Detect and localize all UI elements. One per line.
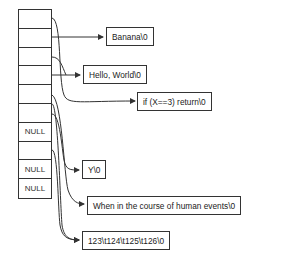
string-box-hello: Hello, World\0 [83,65,147,84]
array-cell [19,142,51,161]
array-cell [19,66,51,85]
arrow-to-num-b [52,150,79,240]
arrow-cell3-to-hello [52,57,66,75]
pointer-array: NULL NULL NULL [18,9,52,199]
array-cell-null: NULL [19,160,51,179]
array-cell [19,48,51,67]
string-box-y: Y\0 [82,160,106,179]
string-box-numbers: 123\t124\t125\t126\0 [82,231,170,250]
array-cell [19,85,51,104]
string-box-when: When in the course of human events\0 [87,196,241,215]
array-cell-null: NULL [19,179,51,198]
pointer-array-diagram: NULL NULL NULL Banana\0 Hello, World\0 i… [0,0,287,262]
arrow-to-when [52,95,84,204]
string-box-banana: Banana\0 [106,27,154,46]
array-cell [19,29,51,48]
array-cell [19,10,51,29]
array-cell-null: NULL [19,123,51,142]
string-box-if: if (X==3) return\0 [137,92,212,111]
array-cell [19,104,51,123]
